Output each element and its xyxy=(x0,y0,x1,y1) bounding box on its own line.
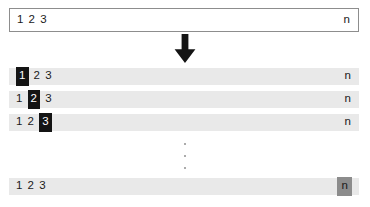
iteration-row-item-2-highlighted: 2 xyxy=(28,90,41,109)
source-array-left-items: 1 2 3 xyxy=(16,9,48,31)
iteration-row-item-2: 2 xyxy=(33,68,42,85)
final-iteration-row-item-n-highlighted: n xyxy=(337,177,352,196)
iteration-row-inner: 1 2 3 n xyxy=(9,68,359,85)
iteration-row-right-items: n xyxy=(343,68,352,85)
source-array-row: 1 2 3 n xyxy=(9,8,359,32)
iteration-row-item-1-highlighted: 1 xyxy=(16,67,29,86)
final-iteration-row-item-1: 1 xyxy=(15,178,24,195)
iteration-row-inner: 1 2 3 n xyxy=(9,114,359,131)
iteration-row-item-n: n xyxy=(343,114,352,131)
iteration-row: 1 2 3 n xyxy=(9,68,359,85)
final-iteration-row-right-items: n xyxy=(337,178,352,195)
source-array-item-n: n xyxy=(342,12,351,29)
source-array-item-2: 2 xyxy=(28,12,37,29)
ellipsis-dot xyxy=(184,155,186,157)
iteration-row-item-3: 3 xyxy=(44,91,53,108)
final-iteration-row-inner: 1 2 3 n xyxy=(9,178,359,195)
final-iteration-row-item-3: 3 xyxy=(38,178,47,195)
iteration-row-right-items: n xyxy=(343,114,352,131)
iteration-row: 1 2 3 n xyxy=(9,114,359,131)
iteration-row-item-1: 1 xyxy=(15,91,24,108)
iteration-row-item-1: 1 xyxy=(15,114,24,131)
iteration-row-item-2: 2 xyxy=(27,114,36,131)
iteration-row-left-items: 1 2 3 xyxy=(15,114,53,131)
iteration-row-item-3-highlighted: 3 xyxy=(39,113,52,132)
ellipsis-dot xyxy=(184,167,186,169)
iteration-row-inner: 1 2 3 n xyxy=(9,91,359,108)
arrow-down-icon xyxy=(170,34,200,64)
source-array-right-items: n xyxy=(342,9,351,31)
iteration-row-left-items: 1 2 3 xyxy=(15,91,53,108)
iteration-row-right-items: n xyxy=(343,91,352,108)
final-iteration-row-left-items: 1 2 3 xyxy=(15,178,47,195)
source-array-item-1: 1 xyxy=(16,12,25,29)
final-iteration-row: 1 2 3 n xyxy=(9,178,359,195)
iteration-row-item-n: n xyxy=(343,91,352,108)
source-array-item-3: 3 xyxy=(39,12,48,29)
source-array-inner: 1 2 3 n xyxy=(10,9,358,31)
vertical-ellipsis-icon xyxy=(178,143,192,169)
iteration-row: 1 2 3 n xyxy=(9,91,359,108)
iteration-row-item-3: 3 xyxy=(44,68,53,85)
final-iteration-row-item-2: 2 xyxy=(27,178,36,195)
iteration-row-left-items: 1 2 3 xyxy=(15,68,53,85)
iteration-row-item-n: n xyxy=(343,68,352,85)
ellipsis-dot xyxy=(184,143,186,145)
